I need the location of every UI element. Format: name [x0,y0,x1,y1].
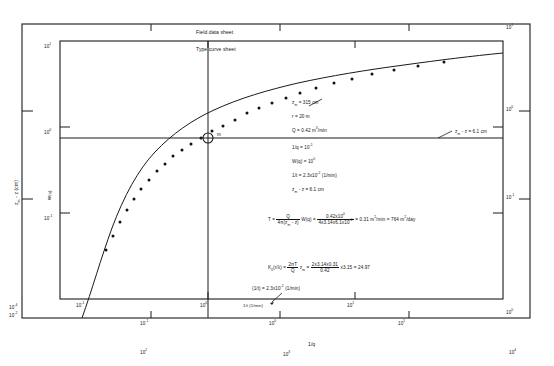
bessel-frac-1: 2πT Q [287,262,298,274]
field-x-tick-2: 100 [269,321,276,327]
bessel-zm: zm [300,265,305,271]
field-x-tick-4: 102 [140,350,147,356]
transmissivity-frac-2: 0.42x100 4x3.14x6.1x10-2 [317,214,353,226]
bottom-match-leader-line [272,293,282,302]
type-curve-axis-ticks [60,41,503,299]
bessel-result: 24.97 [358,265,370,271]
field-data-frame [22,24,530,318]
transmissivity-equation: T = Q 4π(zm - z) W(q) = 0.42x100 4x3.14x… [268,214,415,226]
figure-root: Field data sheet Type curve sheet zm - z… [0,0,554,366]
field-y-tick-bottom: 10-4 [9,305,17,311]
field-x-tick-5: 103 [283,352,290,358]
transmissivity-frac-1: Q 4π(zm - z) [276,214,299,226]
right-y-tick-2: 10-1 [506,195,514,201]
bessel-frac1-num: 2πT [287,262,298,267]
field-y-axis-title: zm - z (cm) [13,180,19,205]
param-line-2: Q = 0.42 m3/min [292,128,327,134]
transmissivity-frac1-den: 4π(zm - z) [276,219,299,225]
transmissivity-result-2: 764 m2/day [391,217,415,223]
type-curve-x-tick-0: 10-1 [76,303,84,309]
type-curve-y-axis-title: W(q) [47,191,52,200]
transmissivity-result-1: 0.31 m2/min [360,217,386,223]
transmissivity-frac2-den: 4x3.14x6.1x10-2 [317,219,353,225]
bottom-match-callout: (1/t) = 2.3x10-2 (1/min) [252,286,300,292]
bessel-frac-2: 2x3.14x0.31 0.42 [311,262,339,274]
right-y-tick-0: 101 [506,25,513,31]
field-x-axis-title: 1/q [308,341,315,347]
type-curve-x-axis-title: 1/t (1/min) [243,303,263,308]
bessel-frac1-den: Q [287,267,298,273]
match-value-3: zm - z = 6.1 cm [292,187,324,193]
type-curve-x-tick-2: 101 [347,303,354,309]
type-curve-line [82,53,503,318]
transmissivity-eq-2: = [355,217,358,223]
right-y-tick-3: 100 [506,310,513,316]
match-value-0: 1/q = 10-1 [292,145,313,151]
field-data-sheet-label: Field data sheet [196,29,233,35]
type-curve-sheet-label: Type curve sheet [196,46,236,52]
field-x-tick-3: 101 [398,321,405,327]
param-line-1: r = 20 m [292,114,310,120]
bessel-frac2-den: 0.42 [311,267,339,273]
type-curve-y-tick-2: 10-1 [44,216,52,222]
plot-canvas [0,0,554,366]
type-curve-y-tick-1: 100 [44,130,51,136]
type-curve-y-tick-0: 101 [44,44,51,50]
transmissivity-eq-1: = [313,217,316,223]
drawdown-leader-line [438,131,452,138]
bessel-frac2-num: 2x3.14x0.31 [311,262,339,267]
match-value-1: W(q) = 100 [292,159,315,165]
transmissivity-wq: W(q) [301,217,311,223]
bottom-match-arrow [270,302,274,305]
drawdown-callout: zm - z = 6.1 cm [455,129,487,135]
type-curve-x-tick-1: 100 [200,303,207,309]
field-axis-ticks [22,24,530,318]
type-curve-frame [60,41,503,299]
right-y-tick-1: 100 [506,107,513,113]
transmissivity-lhs: T = [268,217,275,223]
field-x-tick-6: 104 [509,350,516,356]
bessel-lhs: K0(r/λ) = [268,265,286,271]
bessel-eq-2: = [354,265,357,271]
field-x-tick-1: 10-1 [140,321,148,327]
param-line-0: zm = 315 cm [292,100,318,106]
bessel-equation: K0(r/λ) = 2πT Q zm = 2x3.14x0.31 0.42 x3… [268,262,370,274]
field-x-tick-0: 10-2 [9,313,17,319]
match-point-label: m [217,132,221,138]
match-value-2: 1/t = 2.3x10-2 (1/min) [292,173,337,179]
transmissivity-eq-3: = [387,217,390,223]
bessel-mult-2: x3.15 [340,265,352,271]
bessel-eq-1: = [307,265,310,271]
